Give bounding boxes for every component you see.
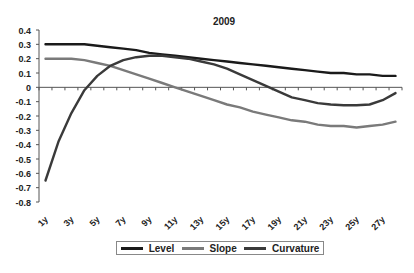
x-tick-label: 21y [291,214,309,232]
x-tick-label: 27y [369,214,387,232]
legend-swatch-slope-icon [182,247,204,250]
y-tick-label: -0.5 [15,155,31,165]
y-tick-label: -0.6 [15,169,31,179]
chart-legend: Level Slope Curvature [116,241,324,255]
x-tick-label: 7y [114,214,128,228]
x-tick-label: 1y [36,214,50,228]
y-tick-label: 0.1 [18,69,31,79]
legend-label-slope: Slope [210,243,237,254]
series-line-curvature [46,56,396,181]
chart: 2009 0.40.30.20.10-0.1-0.2-0.3-0.4-0.5-0… [0,0,414,273]
chart-plot: 2009 0.40.30.20.10-0.1-0.2-0.3-0.4-0.5-0… [0,0,414,273]
y-tick-label: -0.2 [15,112,31,122]
y-tick-label: -0.8 [15,198,31,208]
legend-item-slope: Slope [182,243,237,254]
y-tick-label: -0.4 [15,140,31,150]
legend-swatch-curvature-icon [244,247,266,250]
x-tick-label: 15y [214,214,232,232]
series-line-slope [46,59,396,128]
y-axis: 0.40.30.20.10-0.1-0.2-0.3-0.4-0.5-0.6-0.… [15,26,39,208]
series-lines [46,44,396,180]
legend-item-level: Level [121,243,175,254]
y-tick-label: -0.1 [15,97,31,107]
x-tick-label: 3y [62,214,76,228]
legend-label-level: Level [149,243,175,254]
x-tick-label: 13y [188,214,206,232]
x-tick-label: 11y [162,214,179,231]
y-tick-label: 0 [26,83,31,93]
x-tick-label: 23y [317,214,335,232]
x-tick-label: 9y [139,214,153,228]
y-tick-label: 0.2 [18,54,31,64]
legend-item-curvature: Curvature [244,243,319,254]
x-tick-label: 25y [343,214,361,232]
y-tick-label: -0.3 [15,126,31,136]
legend-swatch-level-icon [121,247,143,250]
x-axis: 1y3y5y7y9y11y13y15y17y19y21y23y25y27y [36,87,402,232]
y-tick-label: 0.4 [18,26,31,36]
series-line-level [46,44,396,76]
x-tick-label: 5y [88,214,102,228]
x-tick-label: 17y [240,214,258,232]
legend-label-curvature: Curvature [272,243,319,254]
x-tick-label: 19y [266,214,284,232]
y-tick-label: -0.7 [15,183,31,193]
chart-title: 2009 [213,16,236,27]
y-tick-label: 0.3 [18,40,31,50]
